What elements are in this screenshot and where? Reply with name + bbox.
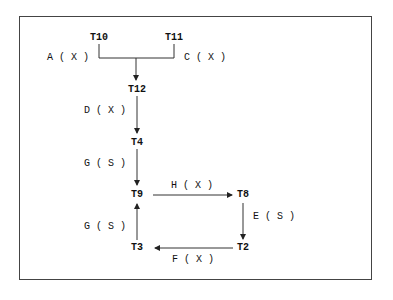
edge-t10-t11-merge [99, 44, 174, 58]
edge-label-c: C ( X ) [184, 53, 226, 63]
edge-label-h: H ( X ) [171, 181, 213, 191]
node-t12: T12 [128, 85, 146, 95]
node-t4: T4 [131, 138, 143, 148]
node-t9: T9 [131, 190, 143, 200]
edge-label-a: A ( X ) [47, 53, 89, 63]
node-t10: T10 [90, 33, 108, 43]
node-t2: T2 [237, 243, 249, 253]
node-t11: T11 [165, 33, 183, 43]
edge-label-e: E ( S ) [253, 212, 295, 222]
node-t8: T8 [237, 190, 249, 200]
edge-label-f: F ( X ) [172, 255, 214, 265]
node-t3: T3 [131, 243, 143, 253]
edge-label-d: D ( X ) [84, 106, 126, 116]
edge-label-g2: G ( S ) [84, 222, 126, 232]
edge-label-g1: G ( S ) [84, 159, 126, 169]
